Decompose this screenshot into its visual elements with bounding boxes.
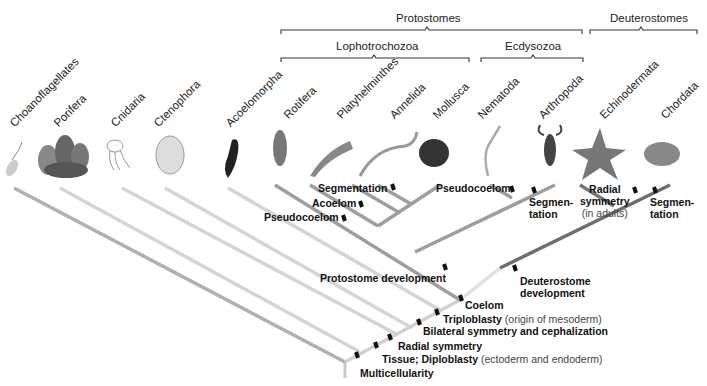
trait-line: tation [650,208,694,220]
jellyfish-icon [107,140,130,170]
branch-ctenophora [165,188,412,328]
trait-triploblasty: Triploblasty (origin of mesoderm) [443,313,602,325]
lophotrochozoa-bracket [281,55,469,62]
snail-shell-icon [419,139,449,167]
trait-note: (in adults) [580,207,630,219]
trait-multicellularity: Multicellularity [360,367,434,379]
deuterostomes-bracket [590,27,697,34]
trait-radial-symmetry: Radial symmetry [398,340,482,352]
deuterostomes-label: Deuterostomes [610,12,688,24]
roundworm-icon [486,126,501,176]
trait-coelom: Coelom [465,299,504,311]
ecdysozoa-bracket [481,55,583,62]
ecdysozoa-label: Ecdysozoa [505,40,561,52]
sponge-icon [38,135,89,178]
trait-line: symmetry [580,195,630,207]
flatworm-icon [310,141,353,177]
trait-segmentation-chordata: Segmen- tation [650,196,694,220]
trait-line: Radial [580,183,630,195]
trait-protostome-development: Protostome development [320,272,446,284]
protostomes-label: Protostomes [396,12,461,24]
trait-line: tation [529,208,573,220]
protostomes-bracket [281,27,582,34]
organism-icons [3,125,680,180]
trait-line: development [520,287,591,299]
comb-jelly-icon [156,136,184,174]
trait-deuterostome-development: Deuterostome development [520,275,591,299]
lophotrochozoa-label: Lophotrochozoa [336,40,418,52]
starfish-icon [572,128,626,180]
trait-bilateral-symmetry: Bilateral symmetry and cephalization [423,325,608,337]
trait-pseudocoelom-ecdysozoa: Pseudocoelom [436,182,511,194]
trait-line: Deuterostome [520,275,591,287]
segmented-worm-icon [360,132,417,176]
acoel-worm-icon [225,139,238,178]
trait-tissue-diploblasty: Tissue; Diploblasty (ectoderm and endode… [382,353,602,365]
trait-segmentation-lophotrochozoa: Segmentation [318,182,387,194]
trait-pseudocoelom-lophotrochozoa: Pseudocoelom [264,211,339,223]
frog-icon [644,142,680,166]
trait-acoelom: Acoelom [312,197,356,209]
trait-line: Segmen- [650,196,694,208]
trait-segmentation-arthropoda: Segmen- tation [529,196,573,220]
trait-radial-symmetry-echinodermata: Radial symmetry (in adults) [580,183,630,219]
rotifer-icon [273,130,287,166]
choanoflagellate-icon [3,158,21,179]
trait-line: Segmen- [529,196,573,208]
scorpion-icon [539,125,562,166]
